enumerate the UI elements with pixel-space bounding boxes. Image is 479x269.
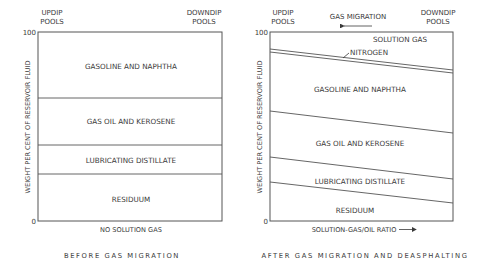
right-x-axis-label: SOLUTION-GAS/OIL RATIO xyxy=(312,226,397,234)
nitrogen-leader-line xyxy=(343,53,349,58)
right-downdip-label-1: DOWNDIP xyxy=(421,9,456,17)
left-updip-label-1: UPDIP xyxy=(41,9,62,17)
left-y-axis-label: WEIGHT PER CENT OF RESERVOIR FLUID xyxy=(24,60,32,193)
right-updip-label-2: POOLS xyxy=(271,18,295,26)
left-band-gas-oil-kerosene: GAS OIL AND KEROSENE xyxy=(87,117,176,126)
right-boundary-gasoline xyxy=(270,111,453,133)
right-band-solution-gas: SOLUTION GAS xyxy=(373,35,427,44)
right-downdip-label-2: POOLS xyxy=(426,18,450,26)
right-y-tick-100: 100 xyxy=(255,29,268,37)
right-y-axis-label: WEIGHT PER CENT OF RESERVOIR FLUID xyxy=(256,60,264,193)
left-band-lubricating-distillate: LUBRICATING DISTILLATE xyxy=(86,156,177,165)
left-x-axis-label: NO SOLUTION GAS xyxy=(100,226,162,234)
left-band-gasoline-naphtha: GASOLINE AND NAPHTHA xyxy=(85,62,177,71)
right-y-tick-0: 0 xyxy=(264,218,268,226)
right-boundary-gasoil xyxy=(270,157,453,179)
left-plot-frame xyxy=(38,32,222,221)
right-panel: UPDIP POOLS DOWNDIP POOLS GAS MIGRATION … xyxy=(255,9,469,260)
left-band-residuum: RESIDUUM xyxy=(112,195,150,204)
right-band-lubricating-distillate: LUBRICATING DISTILLATE xyxy=(315,177,406,186)
right-band-residuum: RESIDUUM xyxy=(336,206,374,215)
right-band-nitrogen: NITROGEN xyxy=(350,48,388,57)
left-downdip-label-1: DOWNDIP xyxy=(187,9,222,17)
right-band-gasoline-naphtha: GASOLINE AND NAPHTHA xyxy=(314,85,406,94)
gas-migration-label: GAS MIGRATION xyxy=(330,13,386,21)
left-downdip-label-2: POOLS xyxy=(192,18,216,26)
left-updip-label-2: POOLS xyxy=(40,18,64,26)
right-updip-label-1: UPDIP xyxy=(272,9,293,17)
right-band-gas-oil-kerosene: GAS OIL AND KEROSENE xyxy=(316,139,405,148)
left-panel: UPDIP POOLS DOWNDIP POOLS 100 0 WEIGHT P… xyxy=(23,9,222,260)
diagram-canvas: UPDIP POOLS DOWNDIP POOLS 100 0 WEIGHT P… xyxy=(0,0,479,269)
left-y-tick-100: 100 xyxy=(23,29,36,37)
left-y-tick-0: 0 xyxy=(32,218,36,226)
left-caption: BEFORE GAS MIGRATION xyxy=(64,252,180,260)
right-caption: AFTER GAS MIGRATION AND DEASPHALTING xyxy=(261,252,468,260)
